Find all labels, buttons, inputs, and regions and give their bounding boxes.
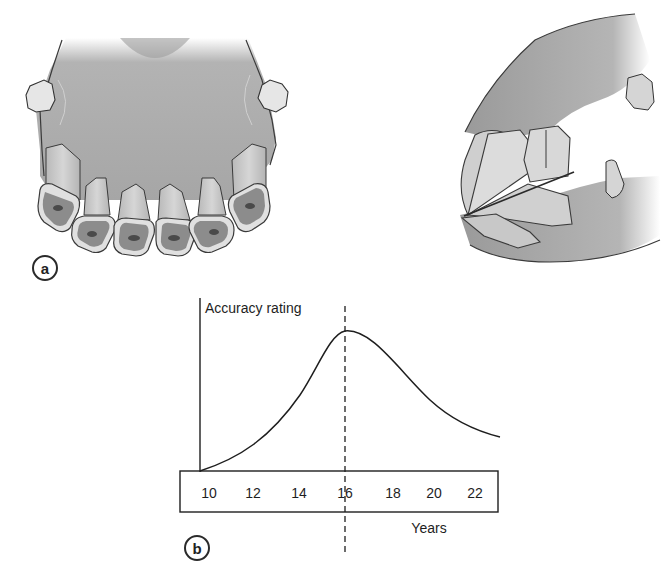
x-tick-12: 12 — [245, 485, 261, 501]
x-tick-20: 20 — [426, 485, 442, 501]
panel-label-b: b — [184, 535, 210, 561]
panel-label-a: a — [32, 255, 58, 281]
lateral-incisors-drawing — [420, 0, 665, 280]
x-axis-label: Years — [411, 520, 446, 536]
x-tick-14: 14 — [291, 485, 307, 501]
accuracy-curve — [200, 331, 500, 471]
x-tick-10: 10 — [201, 485, 217, 501]
lateral-jaw-illustration — [420, 0, 665, 280]
x-tick-16: 16 — [337, 485, 353, 501]
accuracy-chart: Accuracy rating 10 12 14 16 18 20 22 Yea… — [0, 290, 665, 585]
x-tick-18: 18 — [385, 485, 401, 501]
y-axis-label: Accuracy rating — [205, 300, 301, 316]
accuracy-chart-svg: Accuracy rating 10 12 14 16 18 20 22 Yea… — [0, 290, 665, 585]
palate-teeth-drawing — [0, 0, 300, 270]
maxillary-arch-illustration — [0, 0, 300, 270]
x-tick-22: 22 — [467, 485, 483, 501]
